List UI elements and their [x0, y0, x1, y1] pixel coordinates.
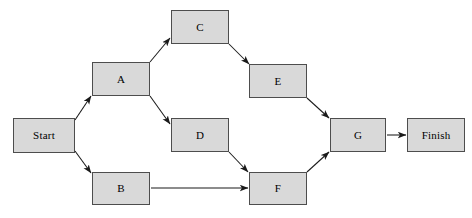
node-e[interactable]: E — [249, 64, 307, 98]
node-label-b: B — [117, 183, 125, 194]
node-a[interactable]: A — [92, 62, 150, 96]
node-b[interactable]: B — [92, 172, 150, 205]
edge-c-to-e — [229, 44, 249, 64]
node-label-start: Start — [33, 130, 55, 141]
node-start[interactable]: Start — [13, 118, 75, 153]
edge-layer — [0, 0, 472, 218]
node-label-e: E — [275, 76, 282, 87]
node-label-g: G — [354, 130, 362, 141]
node-label-finish: Finish — [422, 130, 451, 141]
node-label-f: F — [275, 183, 281, 194]
edge-e-to-g — [307, 98, 329, 118]
node-label-c: C — [196, 22, 204, 33]
edge-start-to-a — [75, 96, 91, 120]
node-label-a: A — [117, 74, 125, 85]
node-g[interactable]: G — [330, 118, 386, 152]
node-d[interactable]: D — [171, 118, 229, 152]
node-f[interactable]: F — [249, 172, 307, 205]
edge-a-to-c — [150, 38, 170, 62]
edge-start-to-b — [75, 151, 91, 173]
node-finish[interactable]: Finish — [407, 118, 465, 152]
edge-d-to-f — [229, 152, 248, 172]
edge-f-to-g — [307, 152, 329, 172]
node-label-d: D — [196, 130, 204, 141]
activity-network-diagram: StartABCDEFGFinish — [0, 0, 472, 218]
edge-a-to-d — [150, 96, 170, 124]
node-c[interactable]: C — [171, 10, 229, 44]
